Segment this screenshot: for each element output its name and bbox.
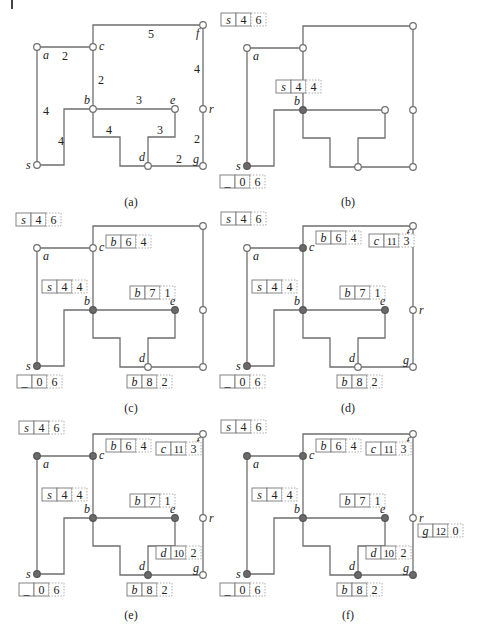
node-label-a: a bbox=[253, 457, 259, 471]
record-cell: b bbox=[342, 375, 348, 389]
record-cell: 4 bbox=[351, 231, 357, 245]
node-label-r: r bbox=[209, 102, 214, 116]
node-s bbox=[34, 162, 41, 169]
node-label-a: a bbox=[253, 249, 259, 263]
node-record-c: b64 bbox=[316, 231, 361, 245]
node-label-r: r bbox=[419, 303, 424, 317]
record-cell: 6 bbox=[255, 375, 261, 389]
node-label-g: g bbox=[403, 561, 409, 575]
record-cell: 8 bbox=[357, 375, 363, 389]
node-label-s: s bbox=[26, 359, 31, 373]
node-s-visited bbox=[34, 363, 41, 370]
record-cell: _ bbox=[224, 175, 232, 189]
node-g bbox=[410, 364, 417, 371]
node-f bbox=[410, 223, 417, 230]
record-cell: 4 bbox=[36, 213, 42, 227]
record-cell: s bbox=[226, 212, 231, 226]
record-cell: b bbox=[132, 375, 138, 389]
record-cell: 1 bbox=[165, 286, 171, 300]
record-cell: 6 bbox=[255, 583, 261, 597]
node-label-d: d bbox=[139, 351, 146, 365]
edge-e-d bbox=[148, 310, 175, 367]
node-record-b: s44 bbox=[42, 488, 87, 502]
node-label-c: c bbox=[309, 240, 315, 254]
node-label-r: r bbox=[209, 511, 214, 525]
node-record-a: s46 bbox=[19, 421, 64, 435]
panel-caption-a: (a) bbox=[124, 195, 137, 209]
record-cell: 6 bbox=[126, 439, 132, 453]
record-cell: 2 bbox=[372, 375, 378, 389]
record-cell: 7 bbox=[150, 494, 156, 508]
record-cell: 1 bbox=[165, 494, 171, 508]
node-label-a: a bbox=[253, 49, 259, 63]
record-cell: 6 bbox=[54, 421, 60, 435]
node-record-e: b71 bbox=[130, 286, 175, 300]
node-record-s: _06 bbox=[220, 375, 265, 389]
record-cell: b bbox=[321, 439, 327, 453]
record-cell: b bbox=[345, 494, 351, 508]
record-cell: 4 bbox=[296, 80, 302, 94]
edge-s-b bbox=[247, 518, 303, 574]
node-label-b: b bbox=[294, 502, 300, 516]
node-record-e: b71 bbox=[130, 494, 175, 508]
record-cell: _ bbox=[224, 583, 232, 597]
node-b-visited bbox=[300, 307, 307, 314]
node-g bbox=[200, 163, 207, 170]
panel-c: sacbeds46s44_06b64b71b82 bbox=[16, 213, 206, 389]
node-label-c: c bbox=[99, 448, 105, 462]
record-cell: 8 bbox=[147, 583, 153, 597]
record-cell: 4 bbox=[62, 280, 68, 294]
node-e bbox=[382, 107, 389, 114]
node-c-visited bbox=[300, 245, 307, 252]
record-cell: 6 bbox=[255, 175, 261, 189]
node-label-b: b bbox=[294, 294, 300, 308]
edge-s-b bbox=[37, 310, 93, 366]
node-record-b: s44 bbox=[276, 80, 321, 94]
record-cell: 0 bbox=[37, 375, 43, 389]
node-label-c: c bbox=[99, 240, 105, 254]
node-a bbox=[34, 245, 41, 252]
node-c bbox=[90, 44, 97, 51]
record-cell: b bbox=[345, 286, 351, 300]
edge-c-f bbox=[303, 26, 413, 48]
node-record-c: b64 bbox=[316, 439, 361, 453]
node-g bbox=[200, 572, 207, 579]
edge-weight: 4 bbox=[106, 123, 112, 137]
edge-e-d bbox=[358, 110, 385, 167]
node-label-g: g bbox=[193, 561, 199, 575]
node-b-visited bbox=[300, 107, 307, 114]
record-cell: s bbox=[257, 488, 262, 502]
node-record-a: s46 bbox=[16, 213, 61, 227]
edge-weight: 3 bbox=[157, 123, 163, 137]
record-cell: c bbox=[161, 442, 167, 456]
node-f bbox=[200, 431, 207, 438]
node-f bbox=[200, 22, 207, 29]
record-cell: s bbox=[281, 80, 286, 94]
node-s-visited bbox=[244, 571, 251, 578]
node-record-d: b82 bbox=[337, 583, 382, 597]
record-cell: 4 bbox=[141, 235, 147, 249]
node-g bbox=[410, 164, 417, 171]
record-cell: 4 bbox=[77, 488, 83, 502]
node-record-e: b71 bbox=[340, 286, 385, 300]
node-label-f: f bbox=[196, 26, 201, 40]
record-cell: 7 bbox=[360, 494, 366, 508]
edge-s-b bbox=[247, 110, 303, 166]
record-cell: 7 bbox=[150, 286, 156, 300]
edge-weight: 3 bbox=[136, 93, 142, 107]
node-d bbox=[355, 364, 362, 371]
node-record-c: b64 bbox=[106, 235, 151, 249]
node-b-visited bbox=[90, 307, 97, 314]
record-cell: 2 bbox=[401, 546, 407, 560]
record-cell: _ bbox=[224, 375, 232, 389]
node-record-e: b71 bbox=[340, 494, 385, 508]
record-cell: 4 bbox=[351, 439, 357, 453]
node-label-e: e bbox=[170, 93, 176, 107]
record-cell: 2 bbox=[191, 546, 197, 560]
record-cell: 4 bbox=[272, 280, 278, 294]
node-r bbox=[410, 307, 417, 314]
edge-e-d bbox=[148, 109, 175, 166]
panel-a: 42524343242sacfberdg bbox=[26, 22, 214, 172]
panel-e: sacfberdgs46s44_06b64c113b71d102b82 bbox=[19, 421, 214, 597]
record-cell: c bbox=[374, 234, 380, 248]
